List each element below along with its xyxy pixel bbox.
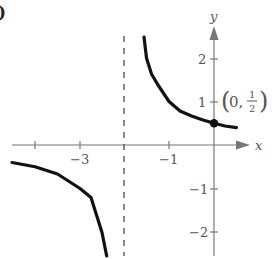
y-axis-label: y [209, 9, 218, 24]
point-label-fraction-numerator: 1 [249, 89, 255, 100]
x-tick-label-neg1: −1 [159, 152, 178, 167]
point-y-intercept [210, 119, 218, 127]
point-label-x: 0, [229, 93, 243, 111]
curve-left-branch [12, 163, 107, 257]
point-label-fraction-denominator: 2 [249, 103, 255, 114]
x-axis-label: x [255, 138, 263, 153]
y-tick-label-neg1: −1 [189, 182, 208, 197]
graph-canvas: ) x y −3 −1 2 1 −1 −2 ( 0, 1 2 ) [0, 0, 272, 259]
figure-label: ) [0, 2, 6, 22]
y-axis-arrow-icon [210, 26, 219, 40]
point-label-close-paren: ) [259, 87, 268, 115]
x-tick-label-neg3: −3 [70, 152, 89, 167]
y-tick-label-2: 2 [198, 52, 206, 67]
y-tick-label-1: 1 [198, 95, 206, 110]
y-tick-label-neg2: −2 [189, 225, 208, 240]
point-label: ( 0, 1 2 ) [221, 87, 268, 115]
x-axis-arrow-icon [236, 141, 250, 150]
